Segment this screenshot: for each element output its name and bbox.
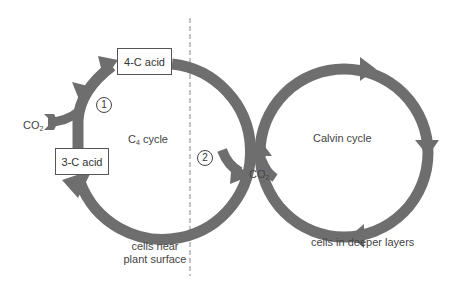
co2-text: CO (23, 119, 40, 131)
calvin-arrowhead-right (415, 140, 439, 156)
c4-cycle-title: C4 cycle (128, 133, 168, 146)
co2-subscript: 2 (266, 174, 270, 181)
co2-text: CO (249, 168, 266, 180)
co2-label-c4: CO2 (23, 119, 43, 132)
box-3c-acid: 3-C acid (55, 148, 109, 175)
diagram-canvas (0, 0, 468, 292)
calvin-cycle-ring (260, 69, 428, 237)
co2-subscript: 2 (40, 125, 44, 132)
step-2-marker: 2 (197, 150, 213, 166)
box-4c-acid: 4-C acid (117, 48, 172, 75)
calvin-cycle-title: Calvin cycle (313, 132, 372, 144)
c4-title-c: C (128, 133, 136, 145)
calvin-region-label: cells in deeper layers (311, 236, 414, 248)
c4-region-line1: cells near (120, 240, 190, 253)
c4-title-rest: cycle (140, 133, 168, 145)
step-1-marker: 1 (96, 97, 112, 113)
c4-region-label: cells near plant surface (120, 240, 190, 266)
co2-label-calvin: CO2 (249, 168, 269, 181)
c4-region-line2: plant surface (120, 253, 190, 266)
